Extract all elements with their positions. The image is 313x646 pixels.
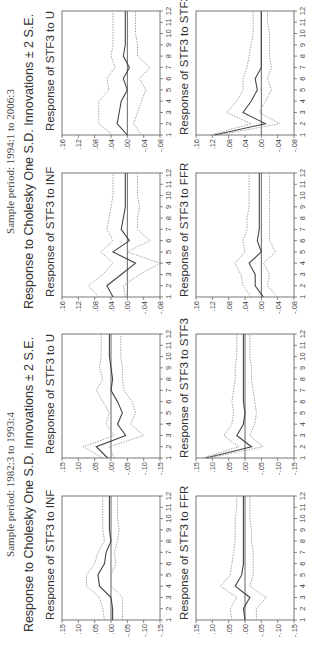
y-tick-label: .00	[241, 462, 250, 472]
plot-frame	[62, 173, 160, 297]
x-tick-label: 9	[298, 366, 307, 370]
response-line	[235, 496, 250, 620]
confidence-band-lower	[209, 334, 263, 458]
y-tick-label: .10	[208, 624, 217, 634]
confidence-band-lower	[134, 11, 150, 135]
confidence-band-lower	[123, 173, 160, 297]
panel-stf3-to-u: Response of STF3 to U .15.10.05.00-.05-.…	[44, 330, 176, 480]
x-tick-label: 5	[298, 250, 307, 254]
impulse-response-plot: .16.12.08.04.00-.04-.08123456789101112	[194, 169, 310, 319]
y-tick-label: .08	[91, 301, 100, 311]
x-tick-label: 10	[164, 514, 173, 522]
x-tick-label: 10	[298, 352, 307, 360]
x-tick-label: 3	[298, 433, 307, 437]
panel-stf3-to-ffr: Response of STF3 to FFR .16.12.08.04.00-…	[178, 169, 310, 319]
y-tick-label: -.04	[140, 301, 149, 314]
x-tick-label: 2	[164, 445, 173, 449]
confidence-band-upper	[87, 496, 105, 620]
x-tick-label: 9	[164, 528, 173, 532]
y-tick-label: -.08	[290, 139, 299, 152]
x-tick-label: 12	[164, 492, 173, 500]
x-tick-label: 9	[298, 43, 307, 47]
y-tick-label: .16	[60, 301, 67, 311]
x-tick-label: 6	[298, 562, 307, 566]
x-tick-label: 11	[298, 341, 307, 349]
y-tick-label: .10	[74, 462, 83, 472]
x-tick-label: 12	[164, 7, 173, 15]
x-tick-label: 9	[164, 205, 173, 209]
confidence-band-upper	[221, 496, 237, 620]
y-tick-label: .10	[74, 624, 83, 634]
impulse-response-plot: .15.10.05.00-.05-.10-.15123456789101112	[194, 330, 310, 480]
x-tick-label: 6	[298, 77, 307, 81]
y-tick-label: -.15	[290, 624, 299, 637]
x-tick-label: 12	[164, 330, 173, 338]
x-tick-label: 4	[298, 422, 307, 426]
x-tick-label: 3	[298, 272, 307, 276]
panel-stf3-to-stf3: Response of STF3 to STF3 .15.10.05.00-.0…	[178, 330, 310, 480]
section-1982-1993: Sample period: 1982:3 to 1993:4 Response…	[0, 323, 313, 646]
x-tick-label: 2	[298, 122, 307, 126]
y-tick-label: .16	[60, 139, 67, 149]
x-tick-label: 10	[298, 191, 307, 199]
response-line	[98, 496, 113, 620]
x-tick-label: 5	[298, 573, 307, 577]
y-tick-label: .16	[194, 301, 201, 311]
y-tick-label: -.04	[274, 139, 283, 152]
x-tick-label: 3	[298, 110, 307, 114]
y-tick-label: .05	[225, 462, 234, 472]
confidence-band-upper	[99, 11, 115, 135]
confidence-band-lower	[219, 11, 280, 135]
x-tick-label: 5	[164, 573, 173, 577]
y-tick-label: .10	[208, 462, 217, 472]
x-tick-label: 2	[164, 122, 173, 126]
x-tick-label: 4	[164, 99, 173, 103]
y-tick-label: .12	[74, 301, 83, 311]
section-subtitle: Response to Cholesky One S.D. Innovation…	[22, 0, 36, 323]
confidence-band-upper	[89, 173, 114, 297]
x-tick-label: 1	[298, 133, 307, 137]
rotated-figure: Sample period: 1994:1 to 2006:3 Response…	[0, 0, 313, 323]
x-tick-label: 4	[298, 261, 307, 265]
x-tick-label: 4	[164, 422, 173, 426]
x-tick-label: 7	[298, 65, 307, 69]
y-tick-label: -.10	[140, 624, 149, 637]
x-tick-label: 12	[298, 330, 307, 338]
y-tick-label: -.15	[156, 462, 165, 475]
x-tick-label: 10	[164, 29, 173, 37]
x-tick-label: 2	[298, 445, 307, 449]
y-tick-label: .00	[123, 301, 132, 311]
x-tick-label: 11	[164, 503, 173, 511]
x-tick-label: 8	[164, 54, 173, 58]
x-tick-label: 7	[298, 388, 307, 392]
x-tick-label: 6	[298, 400, 307, 404]
x-tick-label: 9	[164, 366, 173, 370]
x-tick-label: 8	[298, 216, 307, 220]
y-tick-label: -.08	[156, 301, 165, 314]
x-tick-label: 12	[298, 169, 307, 177]
y-tick-label: -.08	[156, 139, 165, 152]
x-tick-label: 11	[164, 180, 173, 188]
y-tick-label: .08	[225, 139, 234, 149]
panel-title: Response of STF3 to STF3	[178, 330, 190, 458]
y-tick-label: .12	[74, 139, 83, 149]
panel-stf3-to-inf: Response of STF3 to INF .16.12.08.04.00-…	[44, 169, 176, 319]
x-tick-label: 9	[164, 43, 173, 47]
x-tick-label: 1	[164, 295, 173, 299]
panel-stf3-to-stf3: Response of STF3 to STF3 .16.12.08.04.00…	[178, 7, 310, 157]
x-tick-label: 1	[298, 456, 307, 460]
x-tick-label: 6	[298, 239, 307, 243]
x-tick-label: 11	[298, 180, 307, 188]
y-tick-label: .12	[208, 301, 217, 311]
panel-title: Response of STF3 to INF	[44, 492, 56, 620]
impulse-response-plot: .15.10.05.00-.05-.10-.15123456789101112	[60, 330, 176, 480]
x-tick-label: 7	[298, 550, 307, 554]
y-tick-label: .04	[107, 139, 116, 149]
y-tick-label: -.15	[156, 624, 165, 637]
section-title: Sample period: 1982:3 to 1993:4	[4, 323, 16, 646]
x-tick-label: 7	[164, 227, 173, 231]
x-tick-label: 1	[164, 133, 173, 137]
x-tick-label: 6	[164, 239, 173, 243]
y-tick-label: -.04	[274, 301, 283, 314]
y-tick-label: .00	[107, 624, 116, 634]
